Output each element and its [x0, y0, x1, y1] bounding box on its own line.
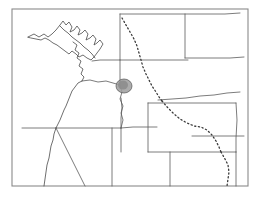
map-container: Western United States state outline map [0, 0, 260, 204]
highlight-group[interactable] [116, 79, 132, 93]
map-background [0, 0, 260, 204]
western-us-map[interactable]: Western United States state outline map [0, 0, 260, 204]
study-area-highlight-core [118, 81, 128, 90]
